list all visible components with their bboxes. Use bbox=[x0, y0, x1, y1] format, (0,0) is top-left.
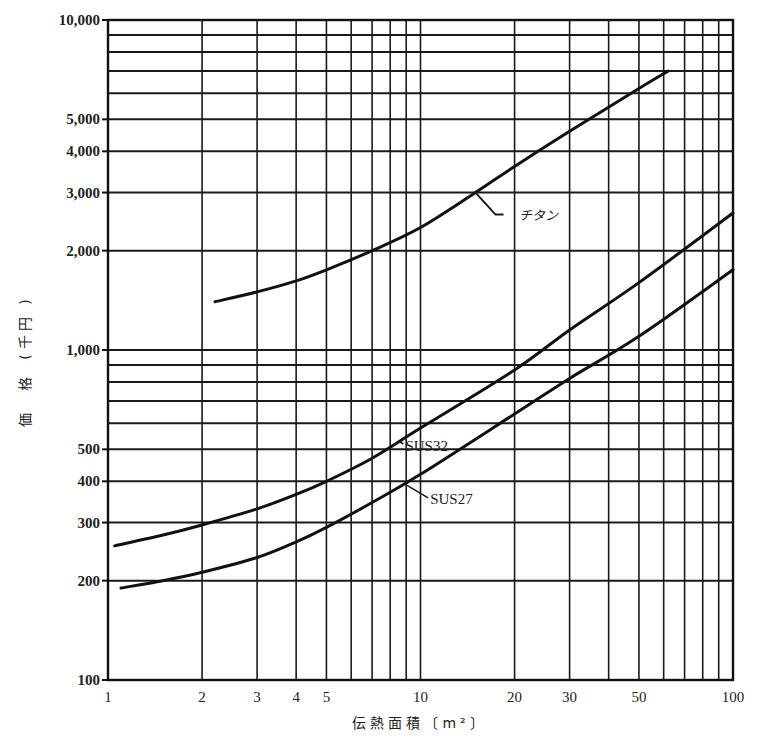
y-tick-label: 10,000 bbox=[59, 12, 100, 28]
y-axis-title-char: ( bbox=[17, 350, 33, 359]
y-axis-title-char: 円 bbox=[17, 313, 33, 331]
series-line-チタン bbox=[215, 71, 668, 302]
x-tick-label: 50 bbox=[631, 689, 646, 705]
series-label-titanium: チタン bbox=[519, 208, 559, 223]
y-tick-label: 4,000 bbox=[66, 143, 100, 159]
x-tick-label: 20 bbox=[507, 689, 522, 705]
log-log-price-chart: 1234510203050100 1002003004005001,0002,0… bbox=[0, 0, 758, 752]
x-tick-label: 30 bbox=[562, 689, 577, 705]
x-axis-tick-labels: 1234510203050100 bbox=[104, 689, 744, 705]
y-tick-label: 2,000 bbox=[66, 243, 100, 259]
x-tick-label: 1 bbox=[104, 689, 112, 705]
y-tick-label: 200 bbox=[78, 573, 101, 589]
y-tick-label: 3,000 bbox=[66, 185, 100, 201]
y-tick-label: 1,000 bbox=[66, 342, 100, 358]
y-axis-tick-labels: 1002003004005001,0002,0003,0004,0005,000… bbox=[59, 12, 108, 688]
titanium-leader-line bbox=[476, 193, 504, 215]
series-label-sus27: SUS27 bbox=[430, 491, 473, 507]
y-axis-title-char: 価 bbox=[17, 409, 33, 427]
x-tick-label: 4 bbox=[292, 689, 300, 705]
y-tick-label: 400 bbox=[78, 473, 101, 489]
grid-lines bbox=[108, 20, 733, 680]
y-axis-title: 価格(千円) bbox=[17, 295, 33, 427]
y-tick-label: 500 bbox=[78, 441, 101, 457]
x-tick-label: 10 bbox=[413, 689, 428, 705]
y-tick-label: 100 bbox=[78, 672, 101, 688]
data-series bbox=[115, 71, 733, 588]
y-axis-title-char: 千 bbox=[17, 331, 33, 349]
x-tick-label: 2 bbox=[198, 689, 206, 705]
y-tick-label: 5,000 bbox=[66, 111, 100, 127]
y-axis-title-char: 格 bbox=[17, 373, 33, 391]
y-axis-title-char: ) bbox=[17, 295, 33, 304]
x-tick-label: 100 bbox=[722, 689, 745, 705]
series-line-SUS27 bbox=[121, 270, 733, 588]
series-label-sus32: SUS32 bbox=[405, 438, 448, 454]
x-axis-title: 伝熱面積〔m²〕 bbox=[352, 715, 487, 731]
sus27-leader-line bbox=[406, 485, 428, 498]
x-tick-label: 3 bbox=[253, 689, 261, 705]
y-tick-label: 300 bbox=[78, 515, 101, 531]
x-tick-label: 5 bbox=[323, 689, 331, 705]
